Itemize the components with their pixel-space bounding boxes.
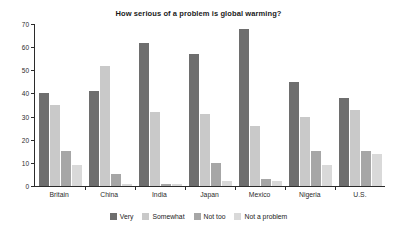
x-axis-tick: [185, 186, 186, 190]
legend-swatch-icon: [194, 213, 201, 220]
x-axis-tick: [235, 186, 236, 190]
bar-group: [235, 24, 285, 186]
y-axis-tick-label: 50: [22, 67, 29, 74]
chart-legend: VerySomewhatNot tooNot a problem: [0, 213, 397, 220]
x-axis-category-label: India: [134, 191, 184, 198]
bar: [211, 163, 221, 186]
bar: [311, 151, 321, 186]
legend-swatch-icon: [142, 213, 149, 220]
bar: [339, 98, 349, 186]
bar: [139, 43, 149, 186]
bar-groups: [35, 24, 385, 186]
bar: [250, 126, 260, 186]
bar: [89, 91, 99, 186]
legend-swatch-icon: [234, 213, 241, 220]
plot-area: 010203040506070: [34, 24, 385, 187]
y-axis-tick-label: 70: [22, 21, 29, 28]
bar: [289, 82, 299, 186]
legend-label: Not too: [204, 213, 226, 220]
bar: [272, 181, 282, 186]
y-axis-tick-label: 0: [25, 183, 29, 190]
bar: [122, 184, 132, 186]
bar-group: [135, 24, 185, 186]
x-axis-labels: BritainChinaIndiaJapanMexicoNigeriaU.S.: [34, 191, 385, 198]
bar: [111, 174, 121, 186]
y-axis-tick-label: 40: [22, 90, 29, 97]
y-axis-tick: [31, 186, 35, 187]
legend-label: Very: [120, 213, 134, 220]
legend-item[interactable]: Somewhat: [142, 213, 184, 220]
legend-item[interactable]: Very: [110, 213, 134, 220]
x-axis-tick: [285, 186, 286, 190]
bar: [200, 114, 210, 186]
bar-group: [335, 24, 385, 186]
legend-label: Somewhat: [152, 213, 184, 220]
y-axis-tick-label: 10: [22, 159, 29, 166]
x-axis-category-label: Britain: [34, 191, 84, 198]
legend-item[interactable]: Not too: [194, 213, 226, 220]
x-axis-category-label: Nigeria: [285, 191, 335, 198]
bar: [172, 184, 182, 186]
bar: [261, 179, 271, 186]
chart-container: How serious of a problem is global warmi…: [0, 0, 397, 237]
bar: [239, 29, 249, 186]
bar: [361, 151, 371, 186]
bar: [222, 181, 232, 186]
chart-title: How serious of a problem is global warmi…: [0, 9, 397, 18]
bar-group: [185, 24, 235, 186]
bar-group: [85, 24, 135, 186]
bar: [39, 93, 49, 186]
bar: [150, 112, 160, 186]
x-axis-tick: [335, 186, 336, 190]
x-axis-category-label: Japan: [184, 191, 234, 198]
bar: [189, 54, 199, 186]
y-axis-tick-label: 60: [22, 44, 29, 51]
bar: [72, 165, 82, 186]
x-axis-category-label: China: [84, 191, 134, 198]
legend-item[interactable]: Not a problem: [234, 213, 287, 220]
x-axis-tick: [85, 186, 86, 190]
bar: [350, 110, 360, 186]
legend-swatch-icon: [110, 213, 117, 220]
x-axis-category-label: U.S.: [335, 191, 385, 198]
bar: [322, 165, 332, 186]
bar: [372, 154, 382, 186]
bar: [300, 117, 310, 186]
bar: [100, 66, 110, 186]
x-axis-category-label: Mexico: [235, 191, 285, 198]
bar-group: [285, 24, 335, 186]
bar: [161, 184, 171, 186]
bar-group: [35, 24, 85, 186]
y-axis-tick-label: 30: [22, 113, 29, 120]
legend-label: Not a problem: [244, 213, 287, 220]
bar: [61, 151, 71, 186]
bar: [50, 105, 60, 186]
y-axis-tick-label: 20: [22, 136, 29, 143]
x-axis-tick: [135, 186, 136, 190]
